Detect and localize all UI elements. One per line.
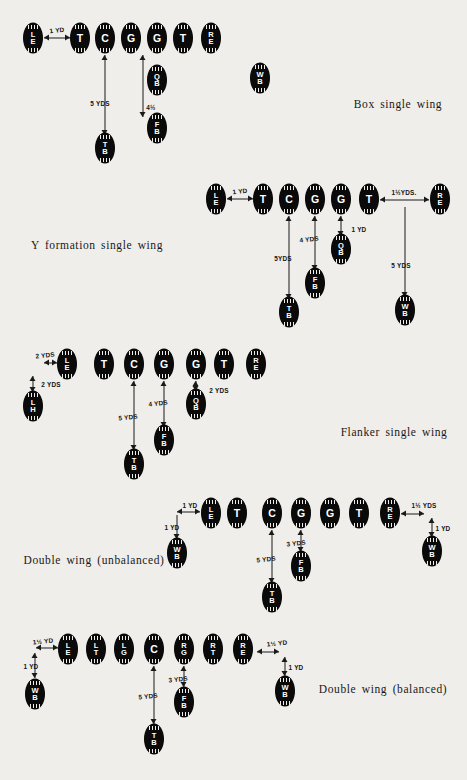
- player-position-letter: B: [151, 739, 156, 747]
- player-marker-tb: TB: [145, 724, 164, 754]
- player-marker-lg: LG: [115, 634, 134, 664]
- player-marker-lt: LT: [87, 634, 106, 664]
- player-marker-fb: FB: [175, 687, 194, 717]
- formation-diagram-sheet: 1 YD5 YDS4½LETCGGTREQBWBFBTBBox single w…: [0, 0, 467, 780]
- player-marker-le: LE: [59, 634, 78, 664]
- player-position-label: RT: [204, 634, 223, 664]
- player-position-letter: B: [32, 694, 37, 702]
- player-position-label: WB: [26, 679, 45, 709]
- player-position-letter: G: [181, 649, 187, 657]
- formation-caption: Double wing (balanced): [319, 683, 447, 695]
- player-position-label: C: [145, 634, 164, 664]
- distance-label: 1½ YD: [266, 638, 287, 647]
- player-position-label: RE: [234, 634, 253, 664]
- formation-double-wing-balanced: 1½ YD1 YD5 YDS3 YDS1½ YD1 YDLELTLGCRGRTR…: [0, 0, 467, 780]
- player-position-label: RG: [175, 634, 194, 664]
- player-position-letter: B: [282, 691, 287, 699]
- distance-arrow: [257, 648, 279, 657]
- player-marker-rg: RG: [175, 634, 194, 664]
- player-marker-wb: WB: [276, 676, 295, 706]
- player-position-letter: T: [211, 649, 216, 657]
- player-marker-c: C: [145, 634, 164, 664]
- distance-label: 1 YD: [24, 663, 39, 670]
- player-position-letter: E: [65, 649, 70, 657]
- player-position-letter: B: [181, 702, 186, 710]
- player-marker-rt: RT: [204, 634, 223, 664]
- player-position-letter: C: [150, 644, 158, 655]
- player-position-label: TB: [145, 724, 164, 754]
- player-position-label: FB: [175, 687, 194, 717]
- player-position-label: LG: [115, 634, 134, 664]
- player-marker-wb: WB: [26, 679, 45, 709]
- player-position-label: LT: [87, 634, 106, 664]
- player-marker-re: RE: [234, 634, 253, 664]
- player-position-letter: E: [240, 649, 245, 657]
- player-position-label: WB: [276, 676, 295, 706]
- distance-label: 1 YD: [289, 664, 304, 671]
- player-position-label: LE: [59, 634, 78, 664]
- player-position-letter: G: [121, 649, 127, 657]
- player-position-letter: T: [94, 649, 99, 657]
